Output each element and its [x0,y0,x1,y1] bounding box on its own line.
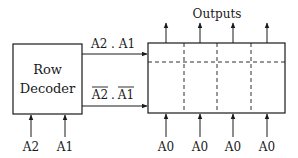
column-input-a0-3: A0 [224,140,241,154]
diagram-canvas: Row Decoder A2 A1 A2 . A1 A2 . A1 Output… [0,0,298,158]
signal-separator: . [111,88,115,102]
signal-not-a2-label: A2 [91,88,108,102]
decoder-label-row: Row [33,62,62,77]
decoder-input-a1: A1 [56,140,73,154]
memory-array-box [148,43,285,113]
column-input-a0-1: A0 [157,140,174,154]
column-input-a0-4: A0 [258,140,275,154]
outputs-label: Outputs [193,7,242,21]
decoder-label-decoder: Decoder [20,81,76,96]
row-decoder-box [13,44,82,114]
signal-a2-a1-label: A2 . A1 [90,37,135,51]
decoder-input-a2: A2 [22,140,39,154]
row-decoder-diagram: Row Decoder A2 A1 A2 . A1 A2 . A1 Output… [0,0,298,158]
column-input-a0-2: A0 [191,140,208,154]
signal-not-a1-label: A1 [117,88,134,102]
